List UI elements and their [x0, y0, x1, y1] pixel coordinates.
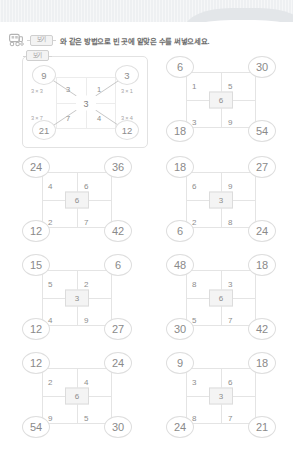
puzzle-7-center-value[interactable]: 3 [209, 388, 233, 405]
puzzle-6-corner-top-right[interactable]: 24 [104, 352, 132, 374]
puzzle-3-corner-bottom-left[interactable]: 6 [166, 220, 194, 242]
puzzle-3-grid: 6 9 2 8 3 [186, 172, 256, 228]
puzzle-4-corner-bottom-left[interactable]: 12 [22, 318, 50, 340]
train-icon [6, 32, 26, 48]
example-mult-label-bottom-right: 3 × 4 [121, 115, 133, 121]
example-center-value: 3 [76, 96, 96, 111]
puzzle-5-corner-bottom-left[interactable]: 30 [166, 318, 194, 340]
puzzle-2-corner-bottom-left[interactable]: 12 [22, 220, 50, 242]
puzzle-1-corner-bottom-right[interactable]: 54 [248, 120, 276, 142]
example-inner-bottom-left: 7 [66, 114, 70, 123]
puzzle-4-corner-bottom-right[interactable]: 27 [104, 318, 132, 340]
puzzle-5-center-value[interactable]: 6 [209, 290, 233, 307]
puzzle-3-corner-top-right[interactable]: 27 [248, 156, 276, 178]
puzzle-5-corner-top-left[interactable]: 48 [166, 254, 194, 276]
puzzle-4: 5 2 4 9 3 15 6 12 27 [8, 250, 146, 346]
puzzle-2-corner-top-left[interactable]: 24 [22, 156, 50, 178]
puzzle-5-corner-bottom-right[interactable]: 42 [248, 318, 276, 340]
example-tag-label: 보기 [26, 50, 49, 61]
puzzle-6-grid: 2 4 9 5 6 [42, 368, 112, 424]
example-corner-top-right: 3 [115, 65, 139, 85]
puzzle-2-corner-top-right[interactable]: 36 [104, 156, 132, 178]
puzzle-6-corner-bottom-right[interactable]: 30 [104, 416, 132, 438]
puzzle-1: 1 5 3 9 6 6 30 18 54 [152, 52, 290, 148]
example-container: 보기 9 3 21 12 3 1 7 4 [22, 50, 150, 150]
instruction-text: 와 같은 방법으로 빈 곳에 알맞은 수를 써넣으세요. [60, 35, 209, 46]
puzzle-7-corner-bottom-right[interactable]: 21 [248, 416, 276, 438]
puzzle-4-grid: 5 2 4 9 3 [42, 270, 112, 326]
puzzle-6-corner-top-left[interactable]: 12 [22, 352, 50, 374]
puzzle-7: 3 6 8 7 3 9 18 24 21 [152, 348, 290, 444]
example-box: 9 3 21 12 3 1 7 4 3 × 3 3 × 1 3 × 7 3 × … [22, 56, 148, 148]
puzzle-3-center-value[interactable]: 3 [209, 192, 233, 209]
puzzle-1-corner-top-left[interactable]: 6 [166, 56, 194, 78]
puzzle-1-corner-bottom-left[interactable]: 18 [166, 120, 194, 142]
puzzle-7-corner-top-right[interactable]: 18 [248, 352, 276, 374]
example-corner-bottom-right: 12 [115, 120, 139, 140]
puzzle-2-corner-bottom-right[interactable]: 42 [104, 220, 132, 242]
puzzle-2-grid: 4 6 2 7 6 [42, 172, 112, 228]
puzzle-3-corner-bottom-right[interactable]: 24 [248, 220, 276, 242]
puzzle-6-center-value[interactable]: 6 [65, 388, 89, 405]
puzzle-7-corner-bottom-left[interactable]: 24 [166, 416, 194, 438]
puzzle-4-corner-top-left[interactable]: 15 [22, 254, 50, 276]
puzzle-5-corner-top-right[interactable]: 18 [248, 254, 276, 276]
example-mult-label-top-left: 3 × 3 [31, 88, 43, 94]
puzzle-5: 8 3 5 7 6 48 18 30 42 [152, 250, 290, 346]
example-mult-label-bottom-left: 3 × 7 [31, 115, 43, 121]
page-top-banner [0, 0, 293, 22]
puzzle-5-grid: 8 3 5 7 6 [186, 270, 256, 326]
puzzle-1-grid: 1 5 3 9 6 [186, 72, 256, 128]
puzzle-6: 2 4 9 5 6 12 24 54 30 [8, 348, 146, 444]
puzzle-4-center-value[interactable]: 3 [65, 290, 89, 307]
puzzle-6-corner-bottom-left[interactable]: 54 [22, 416, 50, 438]
instruction-row: 보기 와 같은 방법으로 빈 곳에 알맞은 수를 써넣으세요. [6, 30, 291, 50]
puzzle-1-corner-top-right[interactable]: 30 [248, 56, 276, 78]
puzzle-2: 4 6 2 7 6 24 36 12 42 [8, 152, 146, 248]
example-corner-top-left: 9 [32, 65, 56, 85]
puzzle-1-center-value[interactable]: 6 [209, 92, 233, 109]
example-inner-top-left: 3 [66, 85, 70, 94]
example-mult-label-top-right: 3 × 1 [121, 88, 133, 94]
puzzle-3-corner-top-left[interactable]: 18 [166, 156, 194, 178]
puzzle-4-corner-top-right[interactable]: 6 [104, 254, 132, 276]
instruction-example-chip: 보기 [30, 35, 53, 46]
example-inner-top-right: 1 [97, 85, 101, 94]
example-inner-bottom-right: 4 [97, 114, 101, 123]
example-inner: 9 3 21 12 3 1 7 4 3 × 3 3 × 1 3 × 7 3 × … [23, 57, 149, 149]
puzzle-2-center-value[interactable]: 6 [65, 192, 89, 209]
puzzle-3: 6 9 2 8 3 18 27 6 24 [152, 152, 290, 248]
puzzle-7-corner-top-left[interactable]: 9 [166, 352, 194, 374]
example-corner-bottom-left: 21 [32, 120, 56, 140]
puzzle-7-grid: 3 6 8 7 3 [186, 368, 256, 424]
